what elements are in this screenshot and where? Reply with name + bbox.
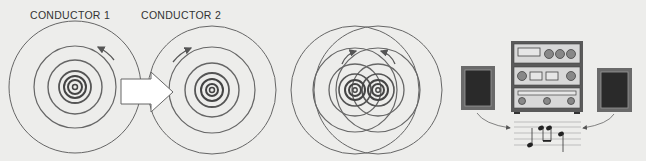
transfer-arrow-icon: [121, 72, 173, 112]
knob-icon: [556, 50, 565, 59]
right-speaker: [597, 68, 632, 112]
knob-icon: [568, 98, 575, 105]
rotation-arrow-icon: [381, 51, 395, 64]
knob-icon: [545, 50, 554, 59]
amplifier-stack: [511, 41, 583, 114]
interacting-fields: [291, 26, 442, 154]
knob-icon: [518, 72, 527, 81]
left-speaker: [461, 66, 495, 110]
sound-arrow-icon: [583, 114, 614, 128]
diagram-canvas: [0, 0, 646, 161]
rotation-arrow-icon: [98, 47, 114, 60]
knob-icon: [567, 72, 576, 81]
rotation-arrow-icon: [342, 51, 356, 64]
knob-icon: [544, 98, 551, 105]
knob-icon: [567, 50, 576, 59]
music-notes-icon: [514, 122, 581, 152]
knob-icon: [519, 98, 526, 105]
sound-arrow-icon: [477, 113, 510, 128]
